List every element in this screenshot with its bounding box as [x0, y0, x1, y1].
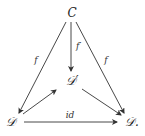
label-f-prime: f′: [75, 41, 81, 51]
arrow-D-to-D-prime: [23, 90, 56, 114]
label-f-right: f: [103, 55, 109, 65]
label-f-left: f: [33, 55, 39, 65]
node-C: C: [67, 6, 76, 20]
arrow-C-to-D-dot: [76, 22, 124, 113]
arrow-D-prime-to-D-dot: [82, 89, 121, 115]
node-D-dot: 𝒟.: [125, 115, 139, 129]
node-D-prime: 𝒟′: [66, 74, 79, 88]
label-id: id: [66, 110, 75, 120]
commutative-diagram: C 𝒟′ 𝒟 𝒟. f f′ f id: [0, 0, 145, 136]
node-D: 𝒟: [6, 115, 18, 129]
